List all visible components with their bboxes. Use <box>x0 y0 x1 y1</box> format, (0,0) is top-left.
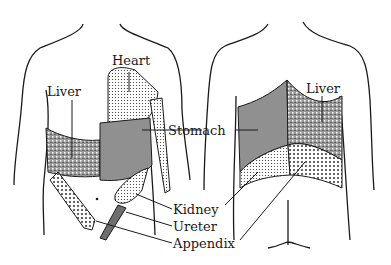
label-ureter: Ureter <box>173 219 218 234</box>
label-stomach: Stomach <box>168 123 226 138</box>
appendix-organ <box>50 172 95 230</box>
label-appendix: Appendix <box>172 236 236 251</box>
anatomy-diagram: Heart Liver Liver Stomach Kidney Ureter … <box>0 0 391 265</box>
esophagus-organ <box>150 98 170 193</box>
label-liver-back: Liver <box>306 81 341 96</box>
label-heart: Heart <box>112 53 151 68</box>
label-kidney: Kidney <box>173 202 219 217</box>
navel <box>96 198 99 201</box>
liver-front-organ <box>46 128 100 177</box>
label-liver-front: Liver <box>47 84 82 99</box>
ureter-organ <box>100 205 126 240</box>
heart-organ <box>108 68 158 126</box>
